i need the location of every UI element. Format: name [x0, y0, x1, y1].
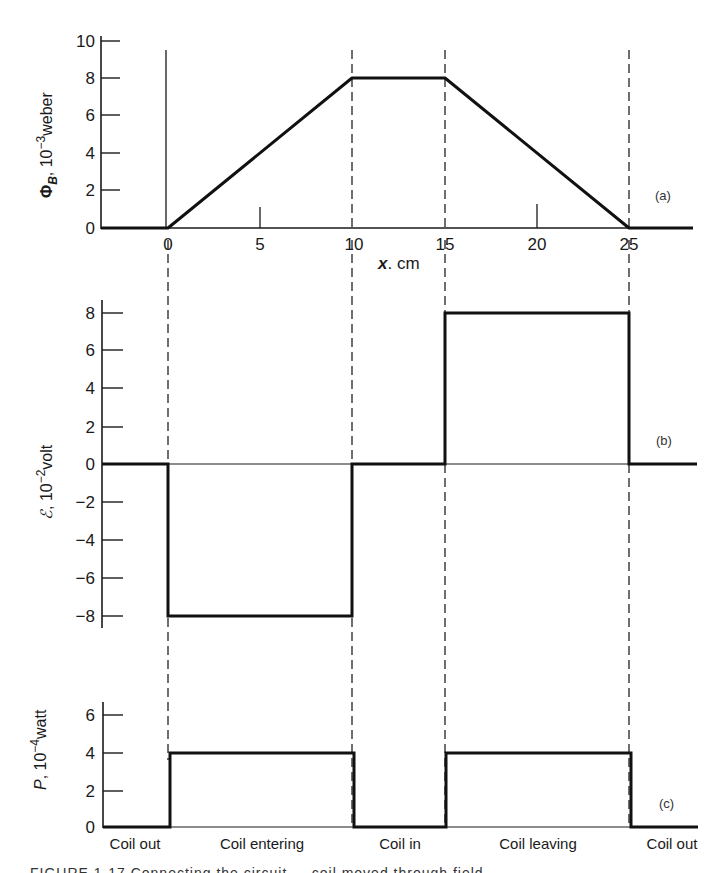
svg-text:8: 8	[86, 69, 95, 88]
x-axis-label: x. cm	[377, 254, 420, 273]
y-tick-labels-a: 10 8 6 4 2 0	[76, 32, 95, 238]
panel-label-a: (a)	[655, 188, 671, 203]
region-label-coil-out-1: Coil out	[110, 835, 162, 852]
svg-text:6: 6	[86, 106, 95, 125]
region-label-coil-entering: Coil entering	[220, 835, 304, 852]
figure-canvas: 10 8 6 4 2 0 0 5 10 15 20 25 x. cm ΦB, 1…	[0, 0, 724, 873]
svg-text:4: 4	[86, 379, 95, 398]
panel-label-c: (c)	[659, 796, 674, 811]
svg-text:15: 15	[436, 235, 455, 254]
svg-text:0: 0	[86, 219, 95, 238]
y-axis-label-c: P, 10−4watt	[28, 709, 49, 790]
svg-text:0: 0	[86, 455, 95, 474]
svg-text:6: 6	[86, 706, 95, 725]
svg-text:0: 0	[86, 818, 95, 837]
svg-text:4: 4	[86, 144, 95, 163]
svg-text:6: 6	[86, 341, 95, 360]
power-curve	[103, 753, 698, 827]
svg-text:2: 2	[86, 418, 95, 437]
y-axis-label-a: ΦB, 10−3weber	[34, 92, 60, 198]
panel-a-flux: 10 8 6 4 2 0 0 5 10 15 20 25 x. cm ΦB, 1…	[34, 32, 693, 273]
region-labels: Coil out Coil entering Coil in Coil leav…	[110, 835, 699, 852]
svg-text:20: 20	[528, 235, 547, 254]
svg-text:−6: −6	[76, 569, 95, 588]
svg-text:10: 10	[76, 32, 95, 51]
panel-label-b: (b)	[656, 433, 672, 448]
region-label-coil-in: Coil in	[379, 835, 421, 852]
dashed-guides	[168, 50, 629, 827]
flux-curve	[101, 78, 693, 228]
y-tick-labels-c: 6 4 2 0	[86, 706, 95, 837]
panel-b-emf: 8 6 4 2 0 −2 −4 −6 −8 ℰ, 10−2volt (b)	[34, 300, 697, 628]
panel-c-power: 6 4 2 0 P, 10−4watt (c) Coil out Coil en…	[28, 702, 698, 852]
region-label-coil-leaving: Coil leaving	[499, 835, 577, 852]
svg-text:8: 8	[86, 304, 95, 323]
region-label-coil-out-2: Coil out	[647, 835, 699, 852]
y-axis-label-b: ℰ, 10−2volt	[34, 444, 55, 520]
x-tick-labels-a: 0 5 10 15 20 25	[163, 235, 638, 254]
svg-text:−4: −4	[76, 531, 95, 550]
y-tick-labels-b: 8 6 4 2 0 −2 −4 −6 −8	[76, 304, 95, 626]
svg-text:2: 2	[86, 181, 95, 200]
svg-text:−2: −2	[76, 493, 95, 512]
svg-text:0: 0	[163, 235, 172, 254]
figure-caption-clipped: FIGURE 1-17 Connecting the circuit ... c…	[30, 864, 630, 873]
svg-text:−8: −8	[76, 607, 95, 626]
svg-text:10: 10	[345, 235, 364, 254]
svg-text:5: 5	[255, 235, 264, 254]
svg-text:2: 2	[86, 782, 95, 801]
svg-text:25: 25	[620, 235, 639, 254]
svg-text:4: 4	[86, 744, 95, 763]
